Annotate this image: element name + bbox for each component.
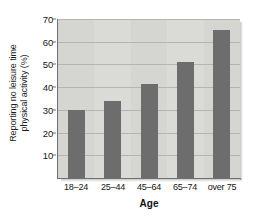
y-axis-tick-mark [53,87,56,88]
y-axis-tick-mark [53,41,56,42]
bar [177,62,194,178]
x-axis-tick-label: 18–24 [64,182,88,192]
x-axis-tick-labels: 18–2425–4445–6465–74over 75 [58,182,240,196]
x-axis-tick-label: 45–64 [137,182,161,192]
bar [213,30,230,178]
y-axis-title-container: Reporting no leisure time physical activ… [0,0,36,185]
y-axis-title-line-2: physical activity (%) [18,44,29,142]
y-axis-tick-mark [53,109,56,110]
y-axis-title: Reporting no leisure time physical activ… [8,44,29,142]
y-axis-tick-label: 20 [43,127,53,138]
x-axis-tick-label: 25–44 [101,182,125,192]
gridline [58,19,240,20]
y-axis-title-line-1: Reporting no leisure time [8,44,19,142]
y-axis-tick-label: 70 [43,14,53,25]
bar [141,84,158,178]
plot-area [58,19,240,178]
bar [104,101,121,178]
y-axis-tick-label: 60 [43,36,53,47]
plot-shadow-right [240,22,243,180]
y-axis-spine [57,19,58,179]
y-axis-tick-mark [53,132,56,133]
y-axis-tick-labels: 10203040506070 [34,0,56,185]
bar [68,110,85,178]
y-axis-tick-label: 10 [43,150,53,161]
y-axis-tick-mark [53,155,56,156]
x-axis-tick-label: 65–74 [173,182,197,192]
y-axis-tick-label: 40 [43,82,53,93]
x-axis-tick-label: over 75 [208,182,237,192]
y-axis-tick-mark [53,19,56,20]
bar-chart-figure: Reporting no leisure time physical activ… [0,0,258,219]
y-axis-tick-label: 50 [43,59,53,70]
y-axis-tick-mark [53,64,56,65]
y-axis-tick-label: 30 [43,104,53,115]
x-axis-title: Age [58,198,240,209]
